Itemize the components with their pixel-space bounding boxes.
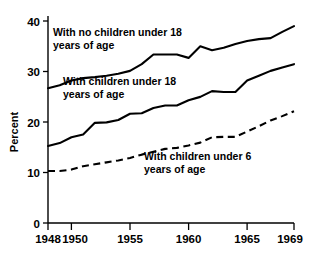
annotation-children-under-6: With children under 6 years of age	[144, 150, 251, 175]
x-tick-label-1960: 1960	[176, 233, 202, 245]
svg-text:years of age: years of age	[53, 39, 114, 51]
x-axis-ticks	[48, 223, 294, 230]
x-tick-label-1965: 1965	[234, 233, 260, 245]
svg-text:With no children under 18: With no children under 18	[53, 26, 182, 38]
line-chart-canvas: 40 30 20 10 0 Percent 1948 1950 1955 196…	[0, 0, 311, 253]
svg-text:With children under 6: With children under 6	[144, 150, 251, 162]
x-tick-label-1948: 1948	[35, 233, 61, 245]
x-tick-label-1950: 1950	[62, 233, 88, 245]
svg-text:With children under 18: With children under 18	[63, 75, 176, 87]
y-axis-title: Percent	[8, 111, 20, 152]
y-tick-label-10: 10	[27, 167, 40, 179]
y-tick-label-0: 0	[34, 218, 40, 230]
y-tick-label-30: 30	[27, 66, 40, 78]
annotation-children-under-18: With children under 18 years of age	[63, 75, 176, 100]
x-tick-label-1969: 1969	[277, 233, 303, 245]
y-axis-ticks	[43, 21, 48, 223]
y-tick-label-40: 40	[27, 16, 40, 28]
y-tick-label-20: 20	[27, 117, 40, 129]
svg-text:years of age: years of age	[144, 163, 205, 175]
x-tick-label-1955: 1955	[117, 233, 143, 245]
svg-text:years of age: years of age	[63, 88, 124, 100]
chart-figure: 40 30 20 10 0 Percent 1948 1950 1955 196…	[0, 0, 311, 253]
annotation-no-children-under-18: With no children under 18 years of age	[53, 26, 182, 51]
